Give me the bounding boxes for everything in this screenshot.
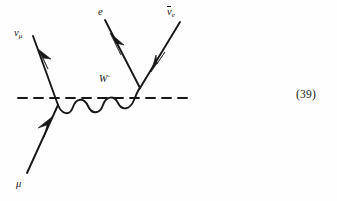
muon-arrowhead-icon	[38, 117, 52, 137]
label-electron-antineutrino-symbol: ν	[167, 7, 172, 18]
muon-neutrino-outgoing-line	[33, 36, 58, 105]
feynman-diagram-figure: .stroke-line { stroke: #171717; fill: no…	[0, 0, 337, 201]
label-electron-antineutrino-subscript: e	[172, 11, 175, 19]
label-w-boson: W−	[99, 74, 111, 84]
label-w-boson-superscript: −	[107, 73, 111, 80]
electron-antineutrino-outgoing-line	[140, 22, 180, 88]
muon-incoming-line	[27, 105, 58, 173]
label-muon-neutrino-subscript: μ	[19, 32, 23, 40]
label-muon: μ	[16, 179, 21, 190]
label-electron-symbol: e	[98, 6, 103, 17]
equation-number: (39)	[296, 88, 316, 100]
diagram-canvas: .stroke-line { stroke: #171717; fill: no…	[0, 0, 337, 201]
electron-antineutrino-arrowhead-icon	[151, 52, 165, 72]
label-electron-antineutrino: νe	[167, 7, 175, 19]
label-muon-neutrino: νμ	[14, 28, 22, 40]
label-electron: e	[98, 7, 103, 18]
label-muon-symbol: μ	[16, 178, 21, 189]
w-boson-propagator	[58, 88, 140, 113]
